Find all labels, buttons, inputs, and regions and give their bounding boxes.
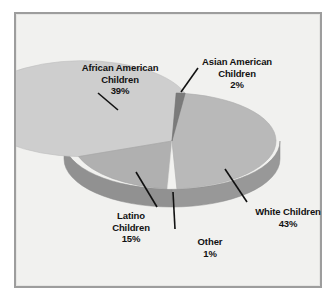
- pie-label-asian-american-children-name-line2: Children: [184, 68, 290, 80]
- pie-label-african-american-children-name-line1: African American: [82, 62, 159, 73]
- pie-label-white-children-percent: 43%: [238, 218, 335, 230]
- pie-label-other-percent: 1%: [172, 248, 248, 260]
- pie-label-latino-children-name-line1: Latino: [117, 210, 145, 221]
- pie-chart-figure: African American Children 39% Asian Amer…: [0, 0, 335, 304]
- pie-label-african-american-children-name-line2: Children: [64, 74, 176, 86]
- pie-label-asian-american-children-name-line1: Asian American: [202, 56, 272, 67]
- pie-label-latino-children-name-line2: Children: [88, 222, 174, 234]
- pie-label-latino-children-percent: 15%: [88, 233, 174, 245]
- pie-label-asian-american-children-percent: 2%: [184, 79, 290, 91]
- pie-label-african-american-children: African American Children 39%: [64, 62, 176, 97]
- chart-frame: African American Children 39% Asian Amer…: [14, 12, 322, 288]
- pie-chart-graphic: [16, 14, 320, 286]
- pie-label-white-children-name-line1: White Children: [255, 206, 321, 217]
- pie-label-african-american-children-percent: 39%: [64, 85, 176, 97]
- pie-label-other: Other 1%: [172, 236, 248, 259]
- pie-label-asian-american-children: Asian American Children 2%: [184, 56, 290, 91]
- pie-label-other-name-line1: Other: [198, 236, 223, 247]
- pie-label-latino-children: Latino Children 15%: [88, 210, 174, 245]
- pie-label-white-children: White Children 43%: [238, 206, 335, 229]
